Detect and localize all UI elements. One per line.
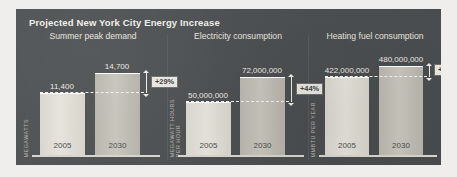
- plot-area: MEGAWATT HOURS PER HOUR 2005 50,000,000 …: [168, 47, 308, 163]
- chart-heating-fuel-consumption: Heating fuel consumption MMBTU PER YEAR …: [309, 31, 441, 163]
- baseline-axis: [32, 155, 160, 157]
- chart-title: Electricity consumption: [168, 31, 308, 41]
- y-axis-label: MEGAWATTS: [23, 119, 29, 157]
- chart-title: Heating fuel consumption: [309, 31, 441, 41]
- baseline-axis: [178, 155, 304, 157]
- bar-2030[interactable]: 2030: [240, 77, 285, 155]
- delta-arrow-head-up: [288, 74, 294, 77]
- bar-2005[interactable]: 2005: [186, 102, 231, 155]
- bar-2005[interactable]: 2005: [325, 77, 369, 155]
- chart-summer-peak-demand: Summer peak demand MEGAWATTS 2005 11,400…: [22, 31, 164, 163]
- bar-year-label: 2030: [95, 141, 140, 150]
- chart-title: Summer peak demand: [22, 31, 164, 41]
- bar-2030[interactable]: 2030: [379, 66, 423, 155]
- bar-value-2030: 14,700: [105, 62, 129, 71]
- baseline-axis: [319, 155, 437, 157]
- bar-2030[interactable]: 2030: [95, 73, 140, 155]
- plot-area: MMBTU PER YEAR 2005 422,000,000 2030 480…: [309, 47, 441, 163]
- delta-arrow: [429, 66, 430, 77]
- bar-year-label: 2005: [186, 141, 231, 150]
- bar-value-2005: 50,000,000: [188, 91, 228, 100]
- reference-dashed-line: [40, 92, 144, 93]
- delta-arrow-head-up: [426, 63, 432, 66]
- bar-year-label: 2030: [240, 141, 285, 150]
- chart-panel-background: Projected New York City Energy Increase …: [16, 9, 441, 165]
- delta-arrow-head-down: [426, 78, 432, 81]
- bar-value-2005: 11,400: [50, 82, 74, 91]
- y-axis-label: MMBTU PER YEAR: [310, 102, 316, 157]
- bar-value-2030: 72,000,000: [242, 66, 282, 75]
- reference-dashed-line: [186, 101, 289, 102]
- delta-arrow-head-down: [143, 94, 149, 97]
- reference-dashed-line: [325, 76, 427, 77]
- bar-year-label: 2005: [325, 141, 369, 150]
- plot-area: MEGAWATTS 2005 11,400 2030 14,700: [22, 47, 164, 163]
- delta-arrow: [146, 73, 147, 93]
- y-axis-label: MEGAWATT HOURS PER HOUR: [169, 99, 181, 157]
- delta-arrow: [291, 77, 292, 102]
- delta-arrow-head-down: [288, 103, 294, 106]
- page-title: Projected New York City Energy Increase: [29, 17, 220, 28]
- percent-increase-badge: +14%: [434, 64, 441, 77]
- bar-2005[interactable]: 2005: [40, 93, 85, 155]
- energy-increase-figure: Projected New York City Energy Increase …: [0, 0, 457, 177]
- bar-year-label: 2005: [40, 141, 85, 150]
- bar-value-2030: 480,000,000: [379, 55, 424, 64]
- delta-arrow-head-up: [143, 70, 149, 73]
- bar-year-label: 2030: [379, 141, 423, 150]
- bar-value-2005: 422,000,000: [325, 66, 370, 75]
- chart-electricity-consumption: Electricity consumption MEGAWATT HOURS P…: [168, 31, 308, 163]
